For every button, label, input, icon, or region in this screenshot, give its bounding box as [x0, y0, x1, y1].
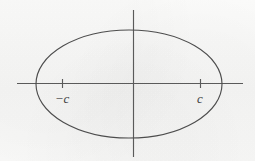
diagram-canvas [0, 0, 255, 161]
ellipse-diagram: −c c [0, 0, 255, 161]
label-right-focus: c [197, 92, 203, 105]
label-left-focus: −c [55, 92, 70, 105]
